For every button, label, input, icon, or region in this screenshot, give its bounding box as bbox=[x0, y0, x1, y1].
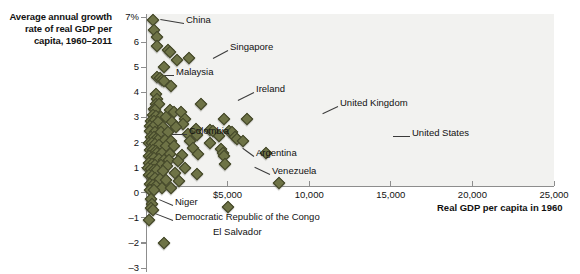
y-tick-mark bbox=[141, 117, 146, 118]
scatter-chart: Average annual growth rate of real GDP p… bbox=[0, 0, 580, 274]
annotation-label: Singapore bbox=[230, 42, 273, 52]
annotation-label: Ireland bbox=[256, 84, 285, 94]
y-tick-label: –2 bbox=[79, 238, 139, 248]
y-tick-label: 7% bbox=[79, 12, 139, 22]
y-tick-mark bbox=[141, 242, 146, 243]
annotation-leader-line bbox=[155, 213, 173, 221]
x-tick-label: 10,000 bbox=[295, 189, 324, 200]
y-tick-mark bbox=[141, 92, 146, 93]
data-point-labeled[interactable] bbox=[158, 237, 171, 250]
y-tick-mark bbox=[141, 268, 146, 269]
x-tick-mark bbox=[390, 181, 391, 186]
y-tick-label: 4 bbox=[79, 87, 139, 97]
y-tick-label: 5 bbox=[79, 62, 139, 72]
y-tick-label: –3 bbox=[79, 263, 139, 273]
annotation-label: China bbox=[186, 15, 211, 25]
annotation-leader-line bbox=[172, 134, 187, 135]
x-tick-mark bbox=[472, 181, 473, 186]
y-tick-label: 6 bbox=[79, 37, 139, 47]
x-tick-label: $5,000 bbox=[213, 189, 242, 200]
annotation-leader-line bbox=[159, 199, 173, 206]
annotation-label: United Kingdom bbox=[340, 98, 408, 108]
x-tick-mark bbox=[227, 181, 228, 186]
y-tick-label: 3 bbox=[79, 112, 139, 122]
x-axis-title: Real GDP per capita in 1960 bbox=[437, 202, 563, 213]
y-tick-label: 2 bbox=[79, 138, 139, 148]
x-tick-mark bbox=[554, 181, 555, 186]
y-tick-mark bbox=[141, 67, 146, 68]
annotation-label: Argentina bbox=[256, 148, 297, 158]
x-tick-mark bbox=[309, 181, 310, 186]
annotation-label: United States bbox=[412, 128, 469, 138]
y-tick-label: 1 bbox=[79, 163, 139, 173]
annotation-leader-line bbox=[393, 136, 410, 137]
x-axis-line bbox=[146, 186, 554, 187]
y-tick-mark bbox=[141, 42, 146, 43]
annotation-label: Niger bbox=[175, 197, 198, 207]
annotation-label: El Salvador bbox=[213, 227, 262, 237]
x-tick-label: 25,000 bbox=[539, 189, 568, 200]
annotation-label: Venezuela bbox=[272, 166, 316, 176]
annotation-label: Colombia bbox=[189, 126, 229, 136]
x-tick-label: 20,000 bbox=[458, 189, 487, 200]
annotation-label: Democratic Republic of the Congo bbox=[175, 212, 320, 222]
x-tick-label: 15,000 bbox=[376, 189, 405, 200]
annotation-label: Malaysia bbox=[176, 67, 214, 77]
annotation-leader-line bbox=[165, 75, 174, 76]
y-tick-label: 0 bbox=[79, 188, 139, 198]
y-tick-label: –1 bbox=[79, 213, 139, 223]
y-tick-mark bbox=[141, 17, 146, 18]
